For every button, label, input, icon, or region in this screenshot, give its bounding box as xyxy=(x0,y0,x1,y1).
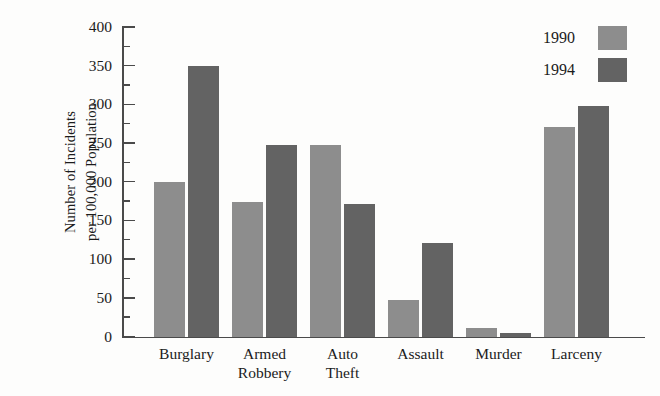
legend: 1990 1994 xyxy=(543,24,627,88)
bar-assault-1990 xyxy=(388,300,419,337)
bar-auto-theft-1994 xyxy=(344,204,375,337)
legend-entry-1994: 1994 xyxy=(543,56,627,83)
y-tick-label-300: 300 xyxy=(70,96,112,111)
legend-label-1990: 1990 xyxy=(543,29,589,47)
y-tick-label-100: 100 xyxy=(70,251,112,266)
bar-larceny-1990 xyxy=(544,127,575,337)
bar-auto-theft-1990 xyxy=(310,145,341,337)
y-tick-label-150: 150 xyxy=(70,212,112,227)
bar-burglary-1994 xyxy=(188,66,219,337)
category-label-line: Theft xyxy=(283,363,403,382)
y-tick-label-400: 400 xyxy=(70,19,112,34)
y-tick-label-350: 350 xyxy=(70,58,112,73)
legend-entry-1990: 1990 xyxy=(543,24,627,51)
bar-assault-1994 xyxy=(422,243,453,337)
category-label-line: Larceny xyxy=(517,344,637,363)
y-tick-label-0: 0 xyxy=(70,329,112,344)
legend-swatch-1990 xyxy=(598,26,627,50)
bar-murder-1990 xyxy=(466,328,497,337)
bar-armed-robbery-1994 xyxy=(266,145,297,337)
bar-larceny-1994 xyxy=(578,106,609,337)
bar-murder-1994 xyxy=(500,333,531,337)
y-tick-label-50: 50 xyxy=(70,290,112,305)
bar-chart-figure: Number of Incidents per 100,000 Populati… xyxy=(0,0,660,396)
y-tick-label-200: 200 xyxy=(70,174,112,189)
legend-swatch-1994 xyxy=(598,58,627,82)
bar-armed-robbery-1990 xyxy=(232,202,263,337)
category-label-larceny: Larceny xyxy=(517,344,637,363)
legend-label-1994: 1994 xyxy=(543,61,589,79)
bar-burglary-1990 xyxy=(154,182,185,337)
y-tick-label-250: 250 xyxy=(70,135,112,150)
